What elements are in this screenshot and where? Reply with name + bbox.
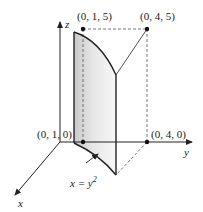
point-0-4-0 <box>145 140 149 144</box>
surface-patch <box>74 32 116 175</box>
label-0-4-5: (0, 4, 5) <box>140 10 175 23</box>
parabolic-cylinder-diagram: z y x (0, 1, 5) (0, 4, 5) (0, 1, 0) (0, … <box>0 0 203 212</box>
curve-equation-label: x = y2 <box>69 175 97 189</box>
y-axis-label: y <box>183 146 189 158</box>
point-0-1-0 <box>81 140 85 144</box>
curve-arrow <box>86 154 98 163</box>
label-0-1-0: (0, 1, 0) <box>37 128 72 141</box>
curve-equation-exponent: 2 <box>93 175 97 184</box>
x-axis-label: x <box>17 197 23 209</box>
z-axis-label: z <box>64 18 70 30</box>
point-0-4-5 <box>145 27 149 31</box>
curve-equation-base: x = y <box>69 177 93 189</box>
x-axis <box>15 142 60 195</box>
label-0-4-0: (0, 4, 0) <box>151 128 186 141</box>
point-0-1-5 <box>81 27 85 31</box>
label-0-1-5: (0, 1, 5) <box>77 10 112 23</box>
edge-line <box>116 29 147 75</box>
